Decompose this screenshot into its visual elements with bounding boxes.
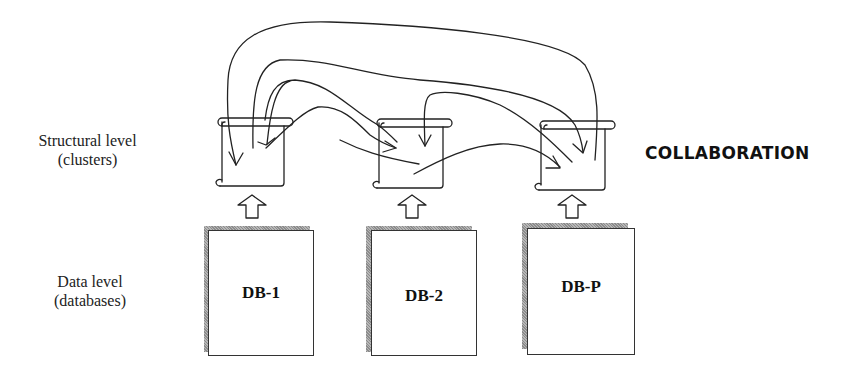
collaboration-arc-1 <box>227 22 597 165</box>
cluster-2-scroll-icon <box>373 119 452 188</box>
collaboration-arc-6 <box>414 144 560 174</box>
collaboration-arc-5 <box>266 107 396 152</box>
cluster-1-scroll-icon <box>216 118 293 186</box>
diagram-lines <box>0 0 843 378</box>
collaboration-arc-2 <box>253 60 587 153</box>
up-arrow-icon-1 <box>238 195 266 218</box>
up-arrow-icon-2 <box>398 195 426 218</box>
cluster-3-scroll-icon <box>535 121 615 190</box>
up-arrow-icon-3 <box>558 195 586 218</box>
